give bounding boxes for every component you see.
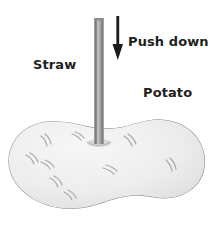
straw-top-rim [95,18,104,20]
potato-straw-diagram: Straw Push down Potato [0,0,217,226]
arrow-shaft [116,16,119,48]
potato-shading [9,120,205,209]
label-potato: Potato [143,86,192,99]
arrow-down-icon [113,16,124,60]
straw-left-edge [95,18,97,144]
label-push-down: Push down [128,35,209,48]
arrow-head [113,44,124,60]
potato-blob-icon [9,120,205,209]
straw-cylinder-icon [95,18,104,144]
straw-highlight [97,18,100,144]
label-straw: Straw [33,58,76,71]
straw-right-edge [102,18,104,144]
